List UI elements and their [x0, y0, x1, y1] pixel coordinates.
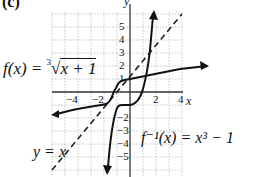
finv-arrow-up [149, 10, 158, 20]
identity-label: y = x [33, 143, 66, 161]
f-radicand: x + 1 [60, 58, 96, 78]
f-label: f(x) = 3√x + 1 [3, 59, 96, 79]
y-tick-neg5: −5 [117, 150, 129, 162]
y-tick-neg3: −3 [117, 124, 129, 136]
y-tick-4: 4 [119, 33, 125, 45]
f-root-index: 3 [47, 57, 52, 67]
f-arrow-right [200, 61, 209, 70]
x-tick-2: 2 [153, 93, 159, 105]
f-label-left: f(x) = [3, 59, 47, 78]
y-tick-5: 5 [119, 20, 125, 32]
x-tick-4: 4 [178, 93, 184, 105]
panel-label: (c) [2, 0, 20, 11]
y-tick-1: 1 [119, 72, 125, 84]
y-axis-label: y [124, 0, 129, 9]
y-tick-neg4: −4 [117, 137, 129, 149]
y-tick-3: 3 [119, 46, 125, 58]
y-tick-neg2: −2 [117, 111, 129, 123]
y-tick-2: 2 [119, 59, 125, 71]
x-axis-label: x [186, 94, 191, 109]
x-tick-neg4: −4 [66, 93, 78, 105]
inverse-label: f⁻¹(x) = x³ − 1 [141, 128, 234, 147]
x-tick-neg2: −2 [92, 93, 104, 105]
